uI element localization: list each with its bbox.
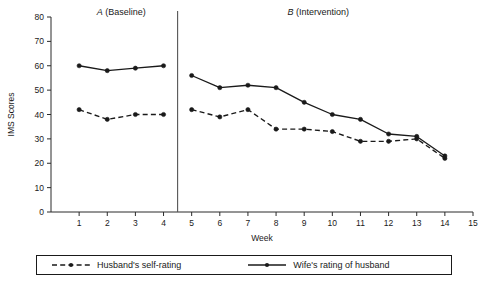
- x-tick-label: 15: [468, 218, 478, 228]
- legend-item-wife: Wife's rating of husband: [247, 259, 389, 271]
- data-point: [274, 86, 278, 90]
- x-tick-label: 11: [356, 218, 365, 228]
- x-tick-label: 10: [328, 218, 338, 228]
- x-tick-label: 12: [384, 218, 394, 228]
- y-tick-label: 20: [35, 158, 45, 168]
- data-point: [105, 69, 109, 73]
- line-chart-svg: 01020304050607080 123456789101112131415 …: [0, 0, 489, 283]
- x-tick-label: 13: [412, 218, 422, 228]
- data-point: [133, 66, 137, 70]
- axis-lines: [51, 17, 473, 212]
- x-tick-label: 3: [133, 218, 138, 228]
- data-point: [302, 100, 306, 104]
- legend-swatch-solid: [247, 259, 287, 271]
- x-axis-ticks: 123456789101112131415: [77, 212, 478, 228]
- data-point: [274, 127, 278, 131]
- chart-legend: Husband's self-rating Wife's rating of h…: [36, 255, 452, 275]
- x-tick-label: 1: [77, 218, 82, 228]
- y-tick-label: 70: [35, 36, 45, 46]
- data-point: [246, 108, 250, 112]
- x-tick-label: 9: [302, 218, 307, 228]
- legend-swatch-dashed: [51, 259, 91, 271]
- series-wife: [77, 64, 447, 158]
- data-point: [218, 86, 222, 90]
- y-tick-label: 10: [35, 183, 45, 193]
- data-point: [190, 73, 194, 77]
- y-tick-label: 0: [39, 207, 44, 217]
- y-tick-label: 80: [35, 12, 45, 22]
- y-tick-label: 50: [35, 85, 45, 95]
- data-series-layer: [77, 64, 447, 161]
- data-point: [77, 64, 81, 68]
- plot-area: 01020304050607080 123456789101112131415 …: [0, 0, 489, 283]
- chart-figure: 01020304050607080 123456789101112131415 …: [0, 0, 489, 283]
- y-tick-label: 60: [35, 61, 45, 71]
- legend-item-husband: Husband's self-rating: [51, 259, 181, 271]
- data-point: [246, 83, 250, 87]
- y-axis-ticks: 01020304050607080: [35, 12, 51, 217]
- data-point: [133, 112, 137, 116]
- data-point: [358, 139, 362, 143]
- x-tick-label: 14: [440, 218, 450, 228]
- phase-label-b: B (Intervention): [287, 7, 349, 17]
- data-point: [330, 129, 334, 133]
- x-axis-title: Week: [251, 233, 273, 243]
- legend-label-husband: Husband's self-rating: [97, 260, 181, 270]
- x-tick-label: 6: [217, 218, 222, 228]
- data-point: [302, 127, 306, 131]
- data-point: [330, 112, 334, 116]
- x-tick-label: 4: [161, 218, 166, 228]
- legend-label-wife: Wife's rating of husband: [293, 260, 389, 270]
- x-tick-label: 5: [189, 218, 194, 228]
- data-point: [190, 108, 194, 112]
- data-point: [77, 108, 81, 112]
- data-point: [161, 64, 165, 68]
- data-point: [358, 117, 362, 121]
- y-tick-label: 40: [35, 110, 45, 120]
- x-tick-label: 2: [105, 218, 110, 228]
- data-point: [105, 117, 109, 121]
- y-tick-label: 30: [35, 134, 45, 144]
- data-point: [161, 112, 165, 116]
- data-point: [415, 134, 419, 138]
- y-axis-title: IMS Scores: [6, 93, 16, 137]
- data-point: [387, 132, 391, 136]
- x-tick-label: 8: [274, 218, 279, 228]
- x-tick-label: 7: [246, 218, 251, 228]
- data-point: [218, 115, 222, 119]
- data-point: [443, 154, 447, 158]
- phase-label-a: A (Baseline): [96, 7, 146, 17]
- data-point: [387, 139, 391, 143]
